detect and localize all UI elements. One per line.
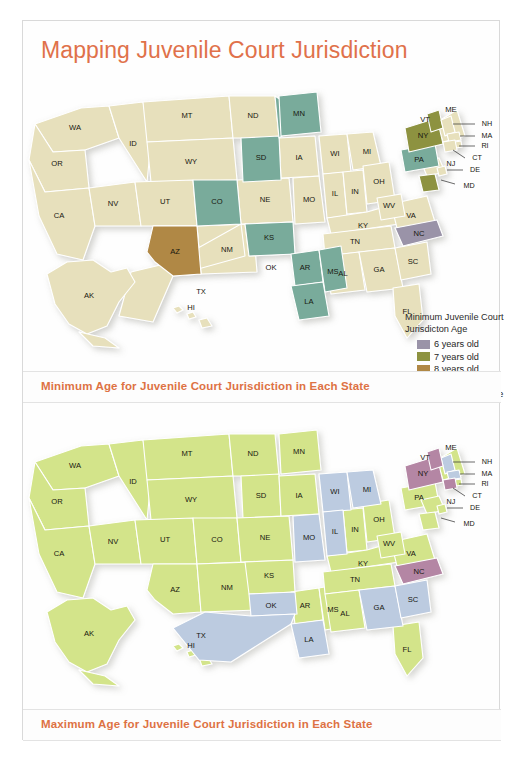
- svg-text:CO: CO: [211, 197, 222, 206]
- svg-text:MS: MS: [327, 605, 338, 614]
- svg-text:WV: WV: [383, 539, 396, 548]
- svg-text:CO: CO: [211, 535, 222, 544]
- svg-text:PA: PA: [414, 155, 425, 164]
- svg-text:NC: NC: [414, 229, 425, 238]
- svg-text:ME: ME: [445, 105, 456, 114]
- caption-text-maximum: Maximum Age for Juvenile Court Jurisdict…: [41, 718, 372, 730]
- svg-text:GA: GA: [374, 265, 386, 274]
- svg-text:ID: ID: [129, 139, 137, 148]
- svg-text:OR: OR: [51, 497, 63, 506]
- svg-text:MT: MT: [182, 449, 193, 458]
- svg-text:KY: KY: [358, 221, 368, 230]
- svg-text:UT: UT: [160, 197, 170, 206]
- svg-text:TN: TN: [350, 575, 360, 584]
- svg-text:MA: MA: [482, 131, 493, 140]
- svg-text:AK: AK: [84, 629, 94, 638]
- svg-text:AZ: AZ: [170, 585, 180, 594]
- legend-swatch-6: [417, 340, 430, 349]
- svg-text:CA: CA: [54, 549, 65, 558]
- svg-text:NJ: NJ: [447, 497, 456, 506]
- svg-text:PA: PA: [414, 493, 425, 502]
- svg-text:IN: IN: [351, 187, 359, 196]
- page-title: Mapping Juvenile Court Jurisdiction: [41, 37, 408, 64]
- legend-title-line1: Minimum Juvenile Court: [405, 312, 504, 324]
- svg-text:RI: RI: [481, 479, 488, 488]
- svg-text:WV: WV: [383, 201, 396, 210]
- svg-text:RI: RI: [481, 141, 488, 150]
- svg-text:VT: VT: [420, 453, 430, 462]
- svg-text:AR: AR: [300, 601, 311, 610]
- svg-text:IL: IL: [332, 527, 338, 536]
- svg-text:TN: TN: [350, 237, 360, 246]
- svg-text:NE: NE: [260, 195, 271, 204]
- svg-text:ME: ME: [445, 443, 456, 452]
- svg-text:SC: SC: [408, 257, 419, 266]
- svg-text:WI: WI: [330, 149, 339, 158]
- svg-text:OH: OH: [373, 177, 384, 186]
- svg-text:NV: NV: [108, 199, 119, 208]
- svg-text:NM: NM: [221, 583, 233, 592]
- svg-text:NY: NY: [418, 469, 429, 478]
- svg-text:VT: VT: [420, 115, 430, 124]
- legend-label-7: 7 years old: [434, 352, 479, 362]
- svg-text:NY: NY: [418, 131, 429, 140]
- svg-text:DE: DE: [470, 165, 480, 174]
- svg-text:OK: OK: [266, 601, 277, 610]
- svg-text:VA: VA: [406, 211, 417, 220]
- svg-text:FL: FL: [403, 645, 412, 654]
- svg-text:AL: AL: [338, 269, 347, 278]
- svg-text:WI: WI: [330, 487, 339, 496]
- svg-text:OK: OK: [266, 263, 277, 272]
- svg-text:MD: MD: [463, 519, 474, 528]
- svg-text:HI: HI: [187, 641, 195, 650]
- svg-text:NH: NH: [482, 457, 492, 466]
- svg-text:SD: SD: [256, 491, 267, 500]
- svg-text:WY: WY: [185, 157, 197, 166]
- svg-text:NJ: NJ: [447, 159, 456, 168]
- svg-text:MO: MO: [303, 533, 315, 542]
- svg-text:MA: MA: [482, 469, 493, 478]
- legend-item[interactable]: 6 years old: [417, 338, 504, 351]
- legend-title-line2: Jurisdicton Age: [405, 324, 504, 336]
- caption-bar-maximum: Maximum Age for Juvenile Court Jurisdict…: [23, 709, 501, 741]
- svg-text:AL: AL: [340, 609, 349, 618]
- svg-text:SC: SC: [408, 595, 419, 604]
- svg-text:KY: KY: [358, 559, 368, 568]
- svg-text:KS: KS: [264, 571, 274, 580]
- svg-text:CT: CT: [472, 153, 482, 162]
- caption-bar-minimum: Minimum Age for Juvenile Court Jurisdict…: [23, 371, 501, 403]
- svg-text:LA: LA: [304, 297, 314, 306]
- svg-text:WA: WA: [69, 123, 82, 132]
- svg-text:TX: TX: [196, 287, 206, 296]
- svg-text:OH: OH: [373, 515, 384, 524]
- svg-text:ND: ND: [248, 111, 259, 120]
- svg-text:NC: NC: [414, 567, 425, 576]
- svg-text:MD: MD: [463, 181, 474, 190]
- svg-text:AK: AK: [84, 291, 94, 300]
- svg-text:WY: WY: [185, 495, 197, 504]
- svg-text:MI: MI: [363, 147, 371, 156]
- svg-text:HI: HI: [187, 303, 195, 312]
- svg-text:AR: AR: [300, 263, 311, 272]
- svg-text:KS: KS: [264, 233, 274, 242]
- svg-text:LA: LA: [304, 635, 314, 644]
- svg-text:NE: NE: [260, 533, 271, 542]
- svg-text:MN: MN: [293, 109, 305, 118]
- svg-text:NM: NM: [221, 245, 233, 254]
- svg-text:MT: MT: [182, 111, 193, 120]
- svg-text:CT: CT: [472, 491, 482, 500]
- legend-label-6: 6 years old: [434, 339, 479, 349]
- caption-text-minimum: Minimum Age for Juvenile Court Jurisdict…: [41, 380, 370, 392]
- svg-text:OR: OR: [51, 159, 63, 168]
- legend-item[interactable]: 7 years old: [417, 351, 504, 364]
- svg-text:UT: UT: [160, 535, 170, 544]
- svg-text:WA: WA: [69, 461, 82, 470]
- us-map-maximum[interactable]: WA OR CA NV ID MT WY UT AZ CO NM ND SD N…: [23, 414, 501, 714]
- svg-text:SD: SD: [256, 153, 267, 162]
- svg-text:IN: IN: [351, 525, 359, 534]
- svg-text:MN: MN: [293, 447, 305, 456]
- svg-text:ID: ID: [129, 477, 137, 486]
- svg-text:IA: IA: [295, 491, 303, 500]
- svg-text:AZ: AZ: [170, 247, 180, 256]
- svg-text:MI: MI: [363, 485, 371, 494]
